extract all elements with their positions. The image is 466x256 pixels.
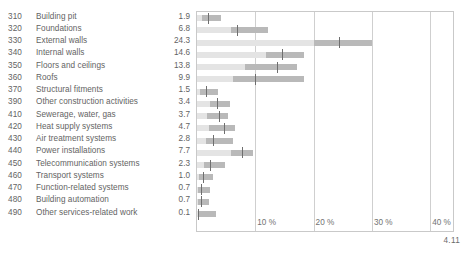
table-row: 430Air treatment systems2.8 <box>0 134 196 146</box>
interquartile-bar <box>314 40 372 46</box>
cost-group-label: Other services-related work <box>36 208 137 217</box>
interquartile-bar <box>210 101 230 107</box>
table-row: 440Power installations7.7 <box>0 146 196 158</box>
box-plot-row <box>197 135 455 147</box>
interquartile-bar <box>207 113 228 119</box>
cost-group-value: 14.6 <box>174 48 190 57</box>
cost-group-code: 360 <box>8 73 22 82</box>
interquartile-bar <box>200 89 217 95</box>
table-row: 460Transport systems1.0 <box>0 170 196 182</box>
figure-caption: 4.11 <box>443 236 460 245</box>
cost-group-label: Sewerage, water, gas <box>36 110 116 119</box>
table-row: 410Sewerage, water, gas3.7 <box>0 109 196 121</box>
median-tick <box>242 147 243 158</box>
axis-tick-label: 30 % <box>371 218 393 227</box>
median-tick <box>203 172 204 183</box>
cost-group-value: 4.7 <box>179 122 190 131</box>
cost-group-value: 0.7 <box>179 195 190 204</box>
cost-group-value: 0.1 <box>179 208 190 217</box>
bar-series <box>197 12 453 231</box>
box-plot-row <box>197 122 455 134</box>
cost-group-label: Telecommunication systems <box>36 159 140 168</box>
cost-group-value: 2.3 <box>179 159 190 168</box>
box-plot-row <box>197 159 455 171</box>
median-tick <box>213 135 214 146</box>
box-plot-row <box>197 147 455 159</box>
cost-group-label: Internal walls <box>36 48 84 57</box>
table-row: 360Roofs9.9 <box>0 72 196 84</box>
median-tick <box>210 160 211 171</box>
box-plot-row <box>197 49 455 61</box>
cost-group-value: 24.3 <box>174 36 190 45</box>
table-row: 320Foundations6.8 <box>0 23 196 35</box>
median-tick <box>208 13 209 24</box>
cost-group-value: 13.8 <box>174 61 190 70</box>
cost-group-value: 0.7 <box>179 183 190 192</box>
cost-group-value: 1.9 <box>179 12 190 21</box>
cost-group-code: 340 <box>8 48 22 57</box>
interquartile-bar <box>266 52 304 58</box>
cost-group-value: 7.7 <box>179 146 190 155</box>
box-plot-row <box>197 86 455 98</box>
cost-group-code: 480 <box>8 195 22 204</box>
interquartile-bar <box>233 76 304 82</box>
box-plot-area <box>196 11 454 232</box>
table-row: 350Floors and ceilings13.8 <box>0 60 196 72</box>
table-row: 490Other services-related work0.1 <box>0 207 196 219</box>
axis-tick-label: 40 % <box>429 218 451 227</box>
axis-tick-label: 10 % <box>254 218 276 227</box>
interquartile-bar <box>245 64 297 70</box>
median-tick <box>201 196 202 207</box>
median-tick <box>217 98 218 109</box>
cost-group-code: 490 <box>8 208 22 217</box>
cost-group-label: External walls <box>36 36 87 45</box>
box-plot-row <box>197 171 455 183</box>
axis-tick-label: 20 % <box>313 218 335 227</box>
table-row: 480Building automation0.7 <box>0 195 196 207</box>
table-row: 390Other construction activities3.4 <box>0 97 196 109</box>
table-row: 340Internal walls14.6 <box>0 48 196 60</box>
cost-group-label: Foundations <box>36 24 82 33</box>
cost-group-code: 390 <box>8 97 22 106</box>
cost-group-value: 1.0 <box>179 171 190 180</box>
cost-group-code: 430 <box>8 134 22 143</box>
cost-group-code: 410 <box>8 110 22 119</box>
median-tick <box>277 62 278 73</box>
box-plot-row <box>197 184 455 196</box>
table-row: 310Building pit1.9 <box>0 11 196 23</box>
table-row: 450Telecommunication systems2.3 <box>0 158 196 170</box>
cost-group-label: Heat supply systems <box>36 122 112 131</box>
median-tick <box>255 74 256 85</box>
cost-group-distribution-figure: 310Building pit1.9320Foundations6.8330Ex… <box>0 0 466 256</box>
interquartile-bar <box>199 174 213 180</box>
box-plot-row <box>197 12 455 24</box>
median-tick <box>198 209 199 220</box>
median-tick <box>206 86 207 97</box>
cost-group-label-table: 310Building pit1.9320Foundations6.8330Ex… <box>0 11 196 219</box>
cost-group-label: Structural fitments <box>36 85 103 94</box>
cost-group-value: 2.8 <box>179 134 190 143</box>
table-row: 370Structural fitments1.5 <box>0 85 196 97</box>
cost-group-value: 6.8 <box>179 24 190 33</box>
cost-group-label: Other construction activities <box>36 97 138 106</box>
cost-group-label: Function-related systems <box>36 183 129 192</box>
cost-group-code: 370 <box>8 85 22 94</box>
interquartile-bar <box>202 15 221 21</box>
cost-group-value: 3.7 <box>179 110 190 119</box>
median-tick <box>201 184 202 195</box>
box-plot-row <box>197 73 455 85</box>
cost-group-code: 450 <box>8 159 22 168</box>
box-plot-row <box>197 24 455 36</box>
table-row: 420Heat supply systems4.7 <box>0 121 196 133</box>
cost-group-value: 9.9 <box>179 73 190 82</box>
cost-group-label: Transport systems <box>36 171 104 180</box>
box-plot-row <box>197 110 455 122</box>
median-tick <box>237 25 238 36</box>
cost-group-label: Building automation <box>36 195 109 204</box>
median-tick <box>339 37 340 48</box>
cost-group-value: 1.5 <box>179 85 190 94</box>
box-plot-row <box>197 98 455 110</box>
interquartile-bar <box>199 211 216 217</box>
box-plot-row <box>197 61 455 73</box>
cost-group-value: 3.4 <box>179 97 190 106</box>
